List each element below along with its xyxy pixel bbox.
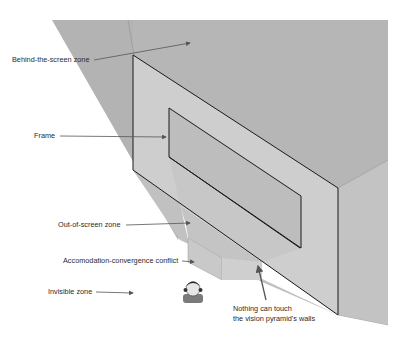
conflict-label: Accomodation-convergence conflict [63,257,178,264]
invisible-zone-label: Invisible zone [48,288,92,295]
person-head-icon [183,282,203,304]
screen-right-face [338,160,388,325]
pyramid-walls-label: Nothing can touch the vision pyramid's w… [233,304,315,323]
invisible-arrow [96,292,133,293]
out-of-screen-zone-label: Out-of-screen zone [58,221,120,228]
behind-the-screen-zone-label: Behind-the-screen zone [12,56,89,63]
frame-label: Frame [34,132,55,139]
